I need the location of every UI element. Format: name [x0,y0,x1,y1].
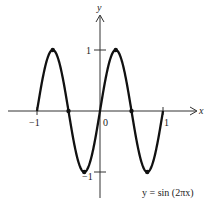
x-tick-label-neg1: −1 [29,117,40,128]
y-tick-label-neg1: −1 [82,171,93,182]
marked-point [129,109,133,113]
marked-point [51,48,55,52]
x-tick-label-1: 1 [164,117,169,128]
sine-chart: y x −1 0 1 1 −1 y = sin (2πx) [0,0,207,210]
y-axis-label: y [96,2,102,13]
y-tick-label-1: 1 [86,45,91,56]
marked-point [66,109,70,113]
x-axis-label: x [198,105,204,116]
x-tick-label-0: 0 [103,117,108,128]
function-annotation: y = sin (2πx) [142,187,194,199]
marked-point [114,48,118,52]
marked-point [145,170,149,174]
